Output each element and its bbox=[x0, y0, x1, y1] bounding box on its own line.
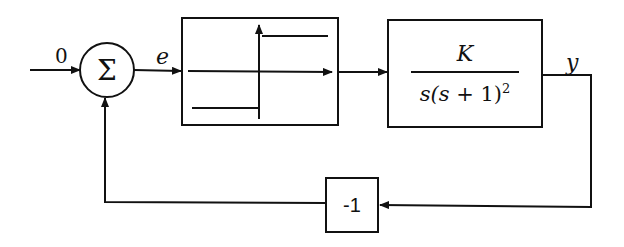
error-label: e bbox=[156, 44, 169, 69]
feedback-gain-label: -1 bbox=[326, 178, 378, 232]
input-label: 0 bbox=[55, 44, 68, 68]
denominator-mid: + 1) bbox=[449, 82, 502, 106]
output-label: y bbox=[566, 50, 578, 75]
sum-symbol: Σ bbox=[80, 43, 134, 97]
denominator-prefix: s( bbox=[420, 82, 439, 106]
plant-transfer-function: K s(s + 1)2 bbox=[388, 20, 542, 127]
error-signal-line bbox=[134, 70, 181, 71]
fraction-bar bbox=[411, 71, 519, 73]
plant-numerator: K bbox=[457, 41, 473, 67]
plant-denominator: s(s + 1)2 bbox=[420, 76, 511, 107]
denominator-var: s bbox=[439, 82, 450, 106]
denominator-exponent: 2 bbox=[502, 81, 510, 96]
feedback-return-line bbox=[105, 98, 326, 203]
